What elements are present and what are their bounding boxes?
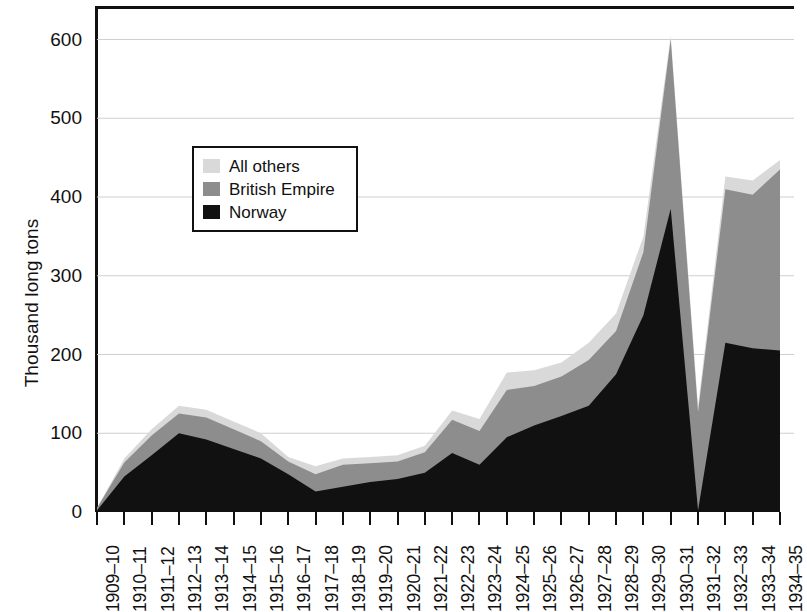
x-tick-label: 1923–24 <box>485 528 506 612</box>
x-tick-label: 1911–12 <box>158 528 179 612</box>
x-tick-mark <box>724 512 726 525</box>
legend: All others British Empire Norway <box>192 146 358 232</box>
x-tick-label: 1925–26 <box>540 528 561 612</box>
plot-area <box>97 8 794 512</box>
x-tick-label: 1926–27 <box>567 528 588 612</box>
x-tick-label: 1924–25 <box>513 528 534 612</box>
x-tick-mark <box>342 512 344 525</box>
x-tick-label: 1931–32 <box>704 528 725 612</box>
x-tick-mark <box>478 512 480 525</box>
legend-label-british-empire: British Empire <box>229 181 335 198</box>
x-tick-label: 1921–22 <box>431 528 452 612</box>
x-tick-label: 1930–31 <box>677 528 698 612</box>
x-tick-label: 1934–35 <box>786 528 807 612</box>
x-tick-label: 1916–17 <box>294 528 315 612</box>
x-axis-tick-marks <box>0 512 794 526</box>
legend-item-norway: Norway <box>203 201 347 224</box>
x-tick-mark <box>287 512 289 525</box>
x-tick-label: 1913–14 <box>212 528 233 612</box>
legend-swatch-all-others-icon <box>203 159 220 173</box>
y-tick-label-100: 100 <box>50 422 82 444</box>
x-tick-mark <box>697 512 699 525</box>
chart-svg <box>97 8 794 512</box>
series-layers <box>97 36 780 512</box>
x-tick-label: 1918–19 <box>349 528 370 612</box>
x-tick-mark <box>260 512 262 525</box>
x-tick-mark <box>315 512 317 525</box>
x-tick-label: 1909–10 <box>103 528 124 612</box>
x-tick-label: 1919–20 <box>376 528 397 612</box>
legend-item-all-others: All others <box>203 155 347 178</box>
x-tick-mark <box>96 512 98 525</box>
x-tick-mark <box>205 512 207 525</box>
y-tick-label-200: 200 <box>50 344 82 366</box>
y-tick-label-600: 600 <box>50 29 82 51</box>
legend-label-all-others: All others <box>229 158 300 175</box>
x-tick-label: 1929–30 <box>649 528 670 612</box>
x-tick-label: 1927–28 <box>595 528 616 612</box>
legend-swatch-norway-icon <box>203 205 220 219</box>
x-tick-label: 1922–23 <box>458 528 479 612</box>
x-tick-mark <box>670 512 672 525</box>
x-tick-mark <box>233 512 235 525</box>
x-tick-mark <box>424 512 426 525</box>
x-tick-mark <box>123 512 125 525</box>
x-tick-mark <box>451 512 453 525</box>
x-tick-mark <box>178 512 180 525</box>
x-tick-mark <box>588 512 590 525</box>
x-tick-mark <box>615 512 617 525</box>
x-tick-mark <box>560 512 562 525</box>
x-tick-label: 1933–34 <box>759 528 780 612</box>
x-tick-label: 1910–11 <box>130 528 151 612</box>
x-tick-mark <box>369 512 371 525</box>
x-tick-label: 1915–16 <box>267 528 288 612</box>
y-tick-label-500: 500 <box>50 107 82 129</box>
x-axis-tick-labels: 1909–101910–111911–121912–131913–141914–… <box>0 528 794 612</box>
legend-item-british-empire: British Empire <box>203 178 347 201</box>
x-tick-mark <box>533 512 535 525</box>
x-tick-mark <box>151 512 153 525</box>
x-tick-mark <box>506 512 508 525</box>
x-tick-label: 1932–33 <box>731 528 752 612</box>
x-tick-label: 1920–21 <box>404 528 425 612</box>
legend-swatch-british-empire-icon <box>203 182 220 196</box>
x-tick-mark <box>779 512 781 525</box>
x-tick-label: 1914–15 <box>240 528 261 612</box>
x-tick-label: 1912–13 <box>185 528 206 612</box>
y-tick-label-400: 400 <box>50 186 82 208</box>
x-tick-label: 1917–18 <box>322 528 343 612</box>
x-tick-mark <box>642 512 644 525</box>
legend-label-norway: Norway <box>229 204 287 221</box>
y-tick-label-300: 300 <box>50 265 82 287</box>
x-tick-mark <box>397 512 399 525</box>
x-tick-label: 1928–29 <box>622 528 643 612</box>
x-tick-mark <box>752 512 754 525</box>
